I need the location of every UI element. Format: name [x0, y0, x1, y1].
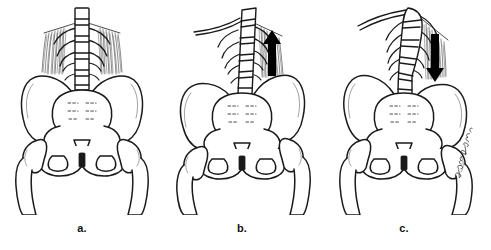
- pelvis-diagram-b: [160, 0, 324, 215]
- left-femur-b: [177, 146, 208, 215]
- pelvis-diagram-c: [322, 0, 486, 215]
- pubic-symphysis-a: [79, 153, 85, 167]
- right-femur-c: [441, 145, 472, 215]
- lumbar-spine-a: [75, 8, 89, 90]
- right-femur-a: [117, 139, 148, 215]
- panel-label-b: b.: [160, 222, 324, 234]
- pubic-symphysis-b: [239, 156, 245, 170]
- right-obturator-foramen-a: [96, 156, 115, 171]
- figure-root: a.: [0, 0, 491, 250]
- right-obturator-foramen-b: [256, 159, 275, 174]
- lumbar-spine-b: [238, 8, 256, 94]
- panel-a: a.: [0, 0, 164, 250]
- left-femur-a: [16, 139, 47, 215]
- lumbar-spine-c: [398, 8, 422, 96]
- panel-b: b.: [160, 0, 324, 250]
- left-obturator-foramen-a: [48, 156, 67, 171]
- quadratus-lumborum-muscle-left-a: [42, 23, 76, 74]
- pelvis-diagram-a: [0, 0, 164, 215]
- panel-label-c: c.: [322, 222, 486, 234]
- left-obturator-foramen-c: [370, 159, 389, 174]
- panel-label-a: a.: [0, 222, 164, 234]
- pubic-symphysis-c: [401, 156, 407, 170]
- panel-c: c.: [322, 0, 486, 250]
- long-rib-b-2: [196, 21, 242, 35]
- right-obturator-foramen-c: [418, 159, 437, 174]
- left-femur-c: [340, 139, 371, 215]
- left-obturator-foramen-b: [208, 159, 227, 174]
- quadratus-lumborum-muscle-right-a: [88, 23, 122, 74]
- right-femur-b: [279, 138, 310, 215]
